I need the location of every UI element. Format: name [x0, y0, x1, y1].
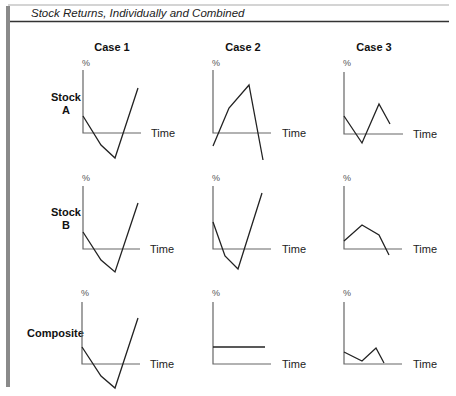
column-header-case-1: Case 1 — [94, 41, 129, 53]
x-axis-label: Time — [150, 358, 174, 370]
panel-stock-a-case-3: % Time — [343, 58, 437, 143]
y-axis-label: % — [82, 58, 90, 68]
axes — [213, 70, 271, 133]
panel-composite-case-3: % Time — [343, 288, 437, 370]
panel-composite-case-1: % Time — [81, 288, 174, 388]
axes — [344, 72, 403, 134]
return-line — [83, 88, 138, 158]
column-header-case-2: Case 2 — [225, 41, 260, 53]
x-axis-label: Time — [282, 358, 306, 370]
row-label-stock-b-line2: B — [62, 219, 70, 231]
x-axis-label: Time — [413, 128, 437, 140]
return-line — [82, 318, 138, 388]
return-line — [83, 203, 138, 272]
y-axis-label: % — [81, 288, 89, 298]
row-label-stock-a-line1: Stock — [51, 91, 82, 103]
figure-title: Stock Returns, Individually and Combined — [31, 7, 245, 19]
row-label-stock-a-line2: A — [62, 104, 70, 116]
y-axis-label: % — [82, 173, 90, 183]
x-axis-label: Time — [282, 243, 306, 255]
return-line — [344, 348, 384, 363]
return-line — [344, 225, 389, 255]
left-bar — [6, 6, 10, 387]
panel-composite-case-2: % Time — [212, 288, 306, 370]
panel-stock-b-case-2: % Time — [212, 173, 306, 269]
axes — [213, 302, 271, 364]
row-label-composite: Composite — [27, 327, 84, 339]
axes — [213, 186, 271, 249]
axes — [83, 186, 140, 249]
return-line — [344, 104, 390, 143]
return-line — [213, 193, 262, 269]
axes — [344, 186, 402, 249]
row-label-stock-b-line1: Stock — [51, 206, 82, 218]
column-header-case-3: Case 3 — [356, 41, 391, 53]
x-axis-label: Time — [151, 127, 175, 139]
y-axis-label: % — [212, 173, 220, 183]
y-axis-label: % — [343, 173, 351, 183]
panel-stock-b-case-3: % Time — [343, 173, 437, 255]
y-axis-label: % — [343, 288, 351, 298]
y-axis-label: % — [343, 58, 351, 68]
y-axis-label: % — [212, 58, 220, 68]
x-axis-label: Time — [282, 127, 306, 139]
x-axis-label: Time — [413, 243, 437, 255]
y-axis-label: % — [212, 288, 220, 298]
x-axis-label: Time — [413, 358, 437, 370]
x-axis-label: Time — [150, 243, 174, 255]
stock-returns-figure: Stock Returns, Individually and Combined… — [0, 0, 456, 396]
return-line — [213, 85, 263, 160]
axes — [82, 302, 140, 364]
axes — [83, 70, 141, 133]
axes — [344, 302, 402, 364]
panel-stock-a-case-2: % Time — [212, 58, 306, 160]
panel-stock-a-case-1: % Time — [82, 58, 175, 158]
panel-stock-b-case-1: % Time — [82, 173, 174, 272]
